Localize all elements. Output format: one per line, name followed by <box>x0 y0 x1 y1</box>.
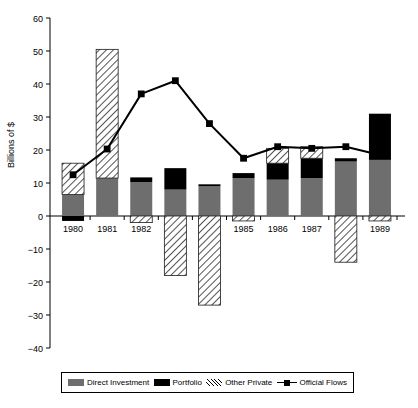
legend-item-official-flows: Official Flows <box>277 379 347 387</box>
line-marker <box>70 171 77 178</box>
svg-text:−30: −30 <box>28 311 43 321</box>
bar-segment <box>198 184 220 186</box>
svg-text:−40: −40 <box>28 344 43 354</box>
legend-item-direct-investment: Direct Investment <box>68 379 149 387</box>
chart-container: 6050403020100−10−20−30−40 19801981198219… <box>0 0 418 408</box>
bar-segment <box>198 216 220 305</box>
bar-segment <box>130 182 152 216</box>
bar-segment <box>96 49 118 178</box>
bar-segment <box>267 148 289 163</box>
direct-investment-swatch <box>68 379 84 386</box>
bar-segment <box>267 180 289 216</box>
svg-text:30: 30 <box>33 113 43 123</box>
bar-segment <box>301 178 323 216</box>
svg-text:60: 60 <box>33 14 43 24</box>
bar-segment <box>130 216 152 223</box>
line-marker <box>377 152 384 159</box>
chart-legend: Direct Investment Portfolio Other Privat… <box>61 372 354 393</box>
legend-item-other-private: Other Private <box>206 379 272 387</box>
bar-segment <box>164 190 186 216</box>
line-marker <box>308 145 315 152</box>
svg-text:1981: 1981 <box>97 224 117 234</box>
line-marker <box>274 143 281 150</box>
bar-segment <box>335 158 357 161</box>
bar-series-group <box>62 49 391 305</box>
bar-segment <box>96 178 118 216</box>
bar-segment <box>62 195 84 216</box>
bar-segment <box>335 216 357 262</box>
bar-segment <box>233 173 255 178</box>
bar-segment <box>164 216 186 275</box>
bar-segment <box>198 186 220 216</box>
legend-label-portfolio: Portfolio <box>173 379 202 387</box>
legend-item-portfolio: Portfolio <box>154 379 202 387</box>
line-marker <box>104 146 111 153</box>
official-flows-swatch <box>277 379 297 386</box>
svg-text:Billions of $: Billions of $ <box>6 122 16 168</box>
svg-text:1982: 1982 <box>131 224 151 234</box>
line-marker <box>240 155 247 162</box>
svg-text:1985: 1985 <box>234 224 254 234</box>
bar-segment <box>130 177 152 182</box>
bar-segment <box>369 216 391 221</box>
bar-segment <box>233 216 255 221</box>
svg-text:1980: 1980 <box>63 224 83 234</box>
y-axis-title: Billions of $ <box>6 122 16 168</box>
legend-label-other-private: Other Private <box>225 379 272 387</box>
svg-text:40: 40 <box>33 80 43 90</box>
line-marker <box>342 143 349 150</box>
portfolio-swatch <box>154 379 170 386</box>
legend-label-official-flows: Official Flows <box>300 379 347 387</box>
svg-text:−10: −10 <box>28 245 43 255</box>
bar-segment <box>335 162 357 216</box>
chart-plot-area: 6050403020100−10−20−30−40 19801981198219… <box>0 0 418 408</box>
bar-segment <box>233 178 255 216</box>
svg-text:1987: 1987 <box>302 224 322 234</box>
svg-text:20: 20 <box>33 146 43 156</box>
bar-segment <box>301 158 323 178</box>
svg-text:10: 10 <box>33 179 43 189</box>
svg-text:50: 50 <box>33 47 43 57</box>
svg-text:−20: −20 <box>28 278 43 288</box>
svg-text:1986: 1986 <box>268 224 288 234</box>
svg-text:0: 0 <box>38 212 43 222</box>
line-marker <box>138 91 145 98</box>
bar-segment <box>164 168 186 189</box>
line-marker <box>172 77 179 84</box>
svg-text:1989: 1989 <box>370 224 390 234</box>
line-marker <box>206 120 213 127</box>
other-private-swatch <box>206 379 222 386</box>
y-axis: 6050403020100−10−20−30−40 <box>28 14 50 354</box>
bar-segment <box>369 160 391 216</box>
bar-segment <box>62 216 84 221</box>
bar-segment <box>267 163 289 180</box>
legend-label-direct-investment: Direct Investment <box>87 379 149 387</box>
